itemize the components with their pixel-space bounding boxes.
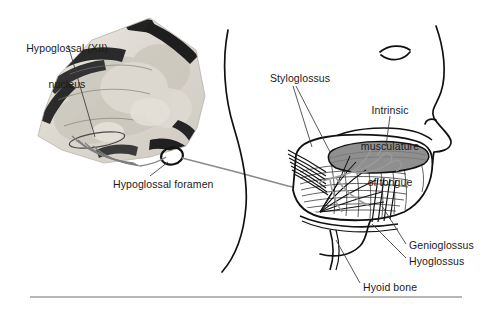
label-intrinsic-musculature: Intrinsic musculature of tongue xyxy=(348,80,432,212)
leader-styloglossus-a xyxy=(293,86,312,147)
label-hypoglossal-nucleus: Hypoglossal (XII) nucleus xyxy=(6,18,128,114)
label-hypoglossal-nucleus-line2: nucleus xyxy=(6,78,128,90)
label-hyoid-bone: Hyoid bone xyxy=(363,281,417,293)
anatomical-figure: Hypoglossal (XII) nucleus Hypoglossal fo… xyxy=(0,0,484,313)
leader-foramen xyxy=(150,162,168,176)
label-hypoglossal-foramen: Hypoglossal foramen xyxy=(113,178,214,190)
leader-hyoid xyxy=(336,240,360,283)
label-intrinsic-line1: Intrinsic xyxy=(348,104,432,116)
leader-hyoglossus xyxy=(372,224,406,258)
eye-lower-lid xyxy=(381,52,410,60)
label-styloglossus: Styloglossus xyxy=(270,72,330,84)
eye-upper-lid xyxy=(380,46,410,52)
label-intrinsic-line2: musculature xyxy=(348,140,432,152)
hyoid-bone-shape-inner xyxy=(336,230,339,270)
label-intrinsic-line3: of tongue xyxy=(348,176,432,188)
label-genioglossus: Genioglossus xyxy=(409,239,474,251)
hyoid-bone-shape xyxy=(330,230,333,270)
label-hypoglossal-nucleus-line1: Hypoglossal (XII) xyxy=(6,42,128,54)
label-hyoglossus: Hyoglossus xyxy=(409,255,464,267)
